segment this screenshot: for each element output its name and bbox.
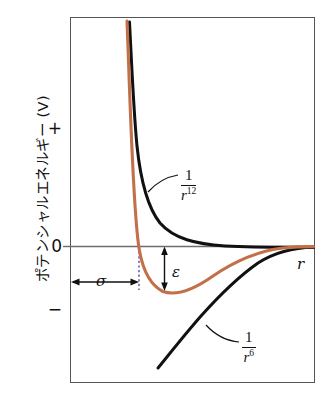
annotation-label-sigma: σ: [96, 272, 106, 290]
curve-attractive-r6: [158, 247, 314, 368]
sigma-arrowhead-right: [131, 279, 140, 286]
epsilon-arrowhead-top: [161, 247, 168, 256]
curve-label-repulsive-r12: 1 r12: [181, 168, 196, 204]
y-tick-label-minus: −: [40, 299, 62, 319]
leader-line-r6: [206, 325, 239, 342]
curve-label-attractive-r6: 1 r6: [242, 330, 256, 366]
curve-repulsive-r12: [130, 22, 314, 247]
curve-label-r6-numerator: 1: [242, 330, 256, 348]
curve-label-r12-exponent: 12: [187, 186, 197, 196]
y-tick-label-zero: 0: [40, 236, 62, 256]
curve-label-r12-denominator: r12: [181, 186, 196, 204]
curve-label-r6-denominator: r6: [242, 348, 256, 366]
lennard-jones-potential-figure: ポテンシャルエネルギー (V) + 0 − 1 r12 1 r6 σ ε r: [0, 0, 335, 414]
annotation-label-epsilon: ε: [172, 263, 180, 281]
y-axis-title: ポテンシャルエネルギー (V): [31, 74, 52, 304]
curve-label-r6-exponent: 6: [249, 348, 254, 358]
curve-label-r12-numerator: 1: [181, 168, 196, 186]
y-tick-label-plus: +: [40, 118, 62, 138]
x-axis-symbol-label: r: [297, 255, 304, 273]
sigma-arrowhead-left: [71, 279, 80, 286]
leader-line-r12: [148, 175, 178, 192]
